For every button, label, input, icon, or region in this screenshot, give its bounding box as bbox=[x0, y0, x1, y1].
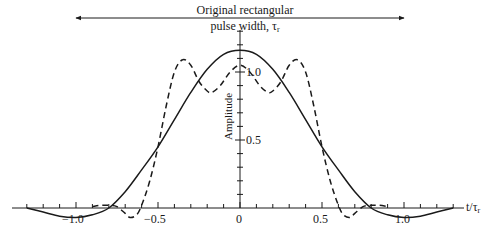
x-axis-label: t/τr bbox=[466, 201, 480, 215]
x-axis-label-sub: r bbox=[478, 206, 481, 215]
x-tick-label: −0.5 bbox=[144, 213, 166, 225]
x-axis-label-text: t/τ bbox=[466, 200, 478, 214]
x-tick-label: 0.5 bbox=[313, 213, 328, 225]
annotation-line2: pulse width, τr bbox=[170, 20, 320, 34]
annotation-line1: Original rectangular bbox=[170, 4, 320, 16]
x-tick-label: −1.0 bbox=[62, 213, 84, 225]
y-tick-label: 1.0 bbox=[246, 66, 261, 78]
x-tick-label: 1.0 bbox=[395, 213, 410, 225]
annotation-line2-text: pulse width, τ bbox=[210, 19, 277, 33]
x-tick-label: 0 bbox=[236, 213, 242, 225]
annotation-line2-sub: r bbox=[277, 25, 280, 34]
axes bbox=[12, 30, 464, 208]
y-axis-label: Amplitude bbox=[222, 93, 234, 140]
y-tick-label: 0.5 bbox=[246, 134, 261, 146]
chart-plot bbox=[0, 0, 498, 235]
